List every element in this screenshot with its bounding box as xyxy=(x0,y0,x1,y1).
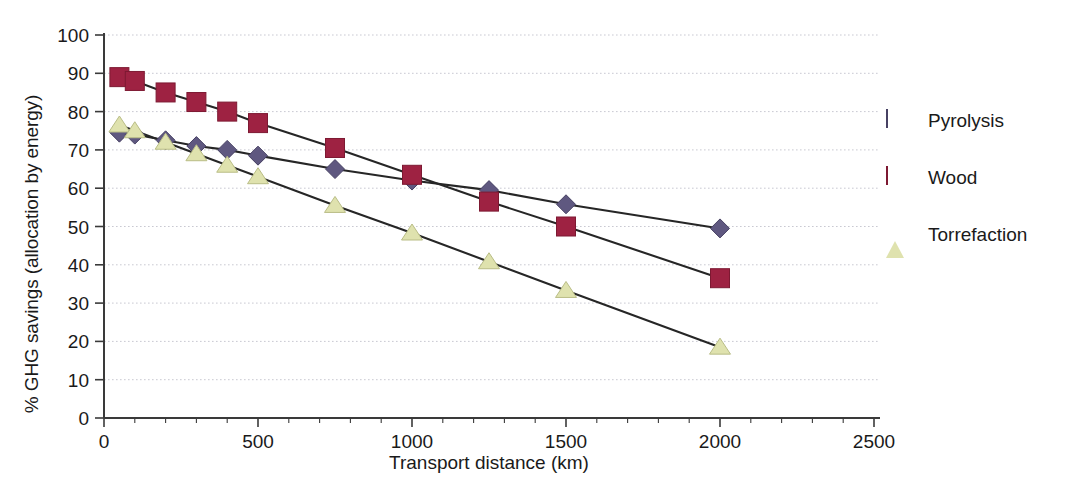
y-axis-tick-labels: 0102030405060708090100 xyxy=(57,25,89,429)
svg-text:30: 30 xyxy=(68,293,89,314)
svg-text:40: 40 xyxy=(68,255,89,276)
triangle-marker-icon xyxy=(886,224,908,246)
svg-text:10: 10 xyxy=(68,370,89,391)
diamond-marker-icon xyxy=(886,110,908,132)
svg-text:70: 70 xyxy=(68,140,89,161)
svg-text:90: 90 xyxy=(68,63,89,84)
x-axis-tick-labels: 05001000150020002500 xyxy=(99,431,895,452)
svg-text:20: 20 xyxy=(68,331,89,352)
series-lines xyxy=(119,77,720,347)
svg-text:80: 80 xyxy=(68,102,89,123)
gridlines xyxy=(104,35,880,418)
x-axis-ticks xyxy=(104,418,874,427)
svg-text:100: 100 xyxy=(57,25,89,46)
legend-item-wood[interactable]: Wood xyxy=(886,149,1066,206)
series-markers xyxy=(109,68,731,355)
svg-text:0: 0 xyxy=(99,431,110,452)
chart-legend: Pyrolysis Wood Torrefaction xyxy=(886,92,1066,263)
legend-label-torrefaction: Torrefaction xyxy=(928,224,1027,246)
legend-item-torrefaction[interactable]: Torrefaction xyxy=(886,206,1066,263)
svg-text:500: 500 xyxy=(242,431,274,452)
axis-lines xyxy=(104,33,880,418)
svg-text:1500: 1500 xyxy=(545,431,587,452)
legend-label-pyrolysis: Pyrolysis xyxy=(928,110,1004,132)
x-axis-title: Transport distance (km) xyxy=(104,452,874,474)
svg-text:1000: 1000 xyxy=(391,431,433,452)
svg-text:50: 50 xyxy=(68,217,89,238)
legend-label-wood: Wood xyxy=(928,167,977,189)
svg-text:60: 60 xyxy=(68,178,89,199)
chart-figure: % GHG savings (allocation by energy) 050… xyxy=(0,0,1066,499)
y-axis-ticks xyxy=(95,35,104,418)
svg-text:0: 0 xyxy=(78,408,89,429)
square-marker-icon xyxy=(886,167,908,189)
svg-text:2000: 2000 xyxy=(699,431,741,452)
svg-text:2500: 2500 xyxy=(853,431,895,452)
legend-item-pyrolysis[interactable]: Pyrolysis xyxy=(886,92,1066,149)
